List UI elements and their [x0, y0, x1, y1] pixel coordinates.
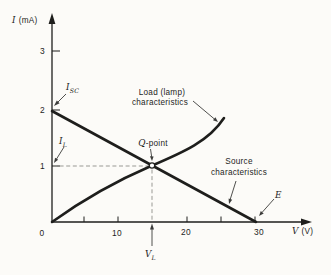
source-label-line1: Source: [225, 157, 253, 166]
x-tick-label-20: 20: [181, 227, 191, 237]
isc-label-sub: SC: [70, 87, 79, 94]
q-point-marker: [149, 163, 154, 168]
iv-characteristics-figure: I(mA) V(V) 1 2 3 0 10 20 30 ISC IL Q-poi…: [0, 0, 331, 275]
x-tick-label-10: 10: [112, 228, 122, 238]
qpoint-label-rest: -point: [146, 139, 168, 148]
source-arrowhead-icon: [229, 199, 233, 204]
isc-arrow-line: [57, 94, 66, 103]
il-arrowhead-icon: [54, 158, 58, 163]
load-arrow-line: [193, 101, 215, 120]
source-arrow-line: [230, 181, 236, 200]
vl-label: VL: [145, 249, 156, 261]
y-tick-label-3: 3: [40, 46, 45, 56]
vl-label-sub: L: [151, 254, 156, 261]
load-label-line1: Load (lamp): [139, 88, 185, 97]
qpoint-label: Q-point: [138, 138, 168, 148]
y-tick-label-2: 2: [40, 105, 45, 115]
il-label-sub: L: [62, 141, 67, 148]
isc-label: ISC: [65, 82, 79, 94]
y-axis-unit: (mA): [19, 16, 38, 25]
y-tick-label-1: 1: [40, 161, 45, 171]
chart-canvas: I(mA) V(V) 1 2 3 0 10 20 30 ISC IL Q-poi…: [0, 0, 331, 275]
vl-arrowhead-icon: [150, 224, 154, 230]
load-characteristics-curve: [52, 118, 224, 222]
x-axis-arrowhead-icon: [301, 219, 312, 226]
qpoint-arrow-line: [151, 149, 152, 157]
y-axis-var: I: [11, 15, 16, 25]
x-axis-var: V: [292, 226, 300, 236]
x-tick-label-30: 30: [254, 227, 264, 237]
source-label-line2: characteristics: [211, 168, 267, 177]
x-axis-unit: (V): [302, 227, 314, 236]
qpoint-arrowhead-icon: [150, 156, 154, 161]
il-arrow-line: [57, 147, 65, 159]
x-axis-title: V(V): [292, 226, 313, 236]
qpoint-label-var: Q: [138, 138, 145, 148]
load-label-line2: characteristics: [132, 98, 188, 107]
x-tick-label-0: 0: [40, 228, 45, 238]
il-label: IL: [58, 136, 67, 148]
y-axis-title: I(mA): [11, 15, 37, 25]
e-label: E: [274, 190, 282, 200]
e-arrow-line: [262, 199, 274, 213]
y-axis-arrowhead-icon: [49, 13, 56, 24]
